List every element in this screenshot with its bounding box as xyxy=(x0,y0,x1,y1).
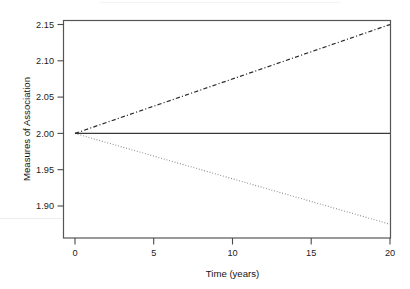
x-tick-label-3: 15 xyxy=(306,248,316,258)
y-tick-label-5: 1.90 xyxy=(36,201,54,211)
x-axis-tick-labels: 0 5 10 15 20 xyxy=(72,248,395,258)
x-tick-label-1: 5 xyxy=(151,248,156,258)
series-line-decreasing-association xyxy=(75,133,390,224)
x-tick-label-4: 20 xyxy=(385,248,395,258)
x-tick-label-2: 10 xyxy=(227,248,237,258)
x-tick-label-0: 0 xyxy=(72,248,77,258)
data-series-group xyxy=(75,25,390,225)
plot-frame xyxy=(64,21,391,239)
x-axis-title: Time (years) xyxy=(206,268,259,279)
y-axis-title: Measures of Association xyxy=(21,77,32,181)
y-tick-label-4: 1.95 xyxy=(36,165,54,175)
y-tick-label-3: 2.00 xyxy=(36,129,54,139)
x-axis-ticks xyxy=(75,238,390,245)
line-chart-plot: 2.15 2.10 2.05 2.00 1.95 1.90 0 5 10 15 … xyxy=(0,0,410,289)
series-line-increasing-association xyxy=(75,25,390,134)
y-tick-label-0: 2.15 xyxy=(36,20,54,30)
y-tick-label-2: 2.05 xyxy=(36,92,54,102)
y-tick-label-1: 2.10 xyxy=(36,56,54,66)
y-axis-ticks xyxy=(58,25,64,207)
chart-figure: 2.15 2.10 2.05 2.00 1.95 1.90 0 5 10 15 … xyxy=(0,0,410,289)
y-axis-tick-labels: 2.15 2.10 2.05 2.00 1.95 1.90 xyxy=(36,20,54,212)
